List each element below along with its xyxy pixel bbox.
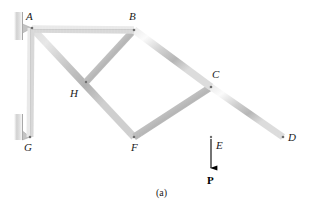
truss-diagram-svg [0,0,309,210]
joint-pin-F [133,136,136,139]
member-CD [211,87,283,137]
joint-pin-B [133,29,136,32]
joint-label-F: F [131,142,138,153]
wall-support-bottom-icon [14,114,23,140]
joint-pin-E [210,136,212,138]
joint-label-G: G [24,142,32,153]
joint-pin-C [210,86,213,89]
joint-label-C: C [212,69,219,80]
joint-label-A: A [26,11,33,22]
figure-caption: (a) [156,188,167,198]
truss-members [30,28,283,137]
joint-pin-D [282,136,285,139]
member-FC [134,87,211,137]
joint-label-H: H [70,88,78,99]
joint-label-E: E [216,140,223,151]
joint-pin-G [29,136,32,139]
joint-label-D: D [288,132,296,143]
joint-pin-H [85,81,87,83]
member-BH [86,30,134,82]
joint-label-B: B [129,11,136,22]
member-AG [30,28,31,137]
joint-pin-A [31,27,34,30]
truss-figure: A B C D E F G H P (a) [0,0,309,210]
member-BC [134,30,211,87]
load-label-P: P [207,175,214,186]
wall-support-top-icon [14,12,23,40]
